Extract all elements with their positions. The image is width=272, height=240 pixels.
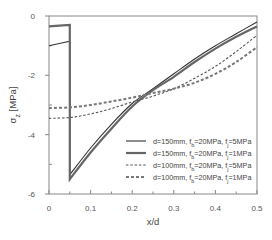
series-line-4 (49, 47, 257, 108)
legend-label-2: d=150mm, fb=20MPa, fj=1MPa (153, 149, 251, 160)
y-tick-label: -4 (28, 131, 36, 140)
x-tick-label: 0 (47, 204, 52, 213)
legend-label-1: d=150mm, fb=20MPa, fj=5MPa (153, 137, 251, 148)
x-tick-label: 0.3 (168, 204, 180, 213)
x-axis-ticks: 00.10.20.30.40.5 (47, 190, 263, 213)
legend-label-4: d=100mm, fb=20MPa, fj=1MPa (153, 173, 251, 184)
y-tick-label: -6 (28, 190, 36, 199)
stress-distribution-chart: 00.10.20.30.40.5 0-2-4-6 d=150mm, fb=20M… (0, 0, 272, 240)
y-tick-label: -2 (28, 71, 36, 80)
x-tick-label: 0.4 (210, 204, 222, 213)
x-tick-label: 0.1 (85, 204, 97, 213)
y-tick-label: 0 (31, 12, 36, 21)
y-axis-label-unit: [MPa] (7, 87, 18, 114)
legend-label-3: d=100mm, fb=20MPa, fj=5MPa (153, 161, 251, 172)
y-axis-label: σz [MPa] (7, 87, 21, 124)
x-tick-label: 0.2 (127, 204, 139, 213)
legend: d=150mm, fb=20MPa, fj=5MPad=150mm, fb=20… (126, 137, 251, 184)
y-axis-ticks: 0-2-4-6 (28, 12, 52, 199)
x-axis-label: x/d (147, 216, 160, 227)
x-tick-label: 0.5 (251, 204, 263, 213)
